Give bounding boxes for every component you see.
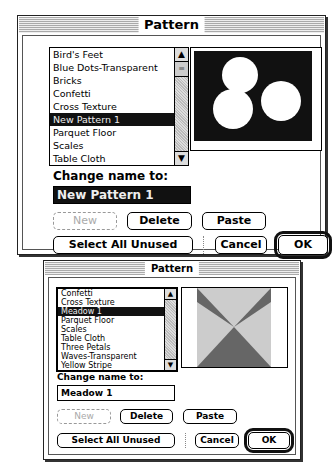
list-item[interactable]: Cross Texture — [50, 100, 175, 113]
scroll-down-arrow-icon[interactable]: ▼ — [175, 151, 188, 165]
list-item[interactable]: Table Cloth — [58, 334, 165, 343]
list-item[interactable]: Waves-Transparent — [58, 352, 165, 361]
list-item[interactable]: New Pattern 1 — [50, 113, 175, 126]
pattern-list-items: ConfettiCross TextureMeadow 1Parquet Flo… — [58, 289, 165, 370]
pattern-dialog-large: Pattern Bird's FeetBlue Dots-Transparent… — [17, 15, 326, 255]
cancel-button[interactable]: Cancel — [215, 236, 267, 254]
pattern-list[interactable]: ConfettiCross TextureMeadow 1Parquet Flo… — [56, 287, 178, 372]
pattern-list-items: Bird's FeetBlue Dots-TransparentBricksCo… — [50, 48, 175, 165]
list-item[interactable]: Confetti — [58, 289, 165, 298]
list-item[interactable]: Yellow Stripe — [58, 361, 165, 370]
list-item[interactable]: Parquet Floor — [50, 126, 175, 139]
list-item[interactable]: Blue Dots-Transparent — [50, 61, 175, 74]
pattern-preview-image — [182, 288, 287, 367]
select-all-unused-button[interactable]: Select All Unused — [53, 236, 193, 254]
new-button[interactable]: New — [57, 409, 111, 424]
pattern-preview — [190, 47, 322, 151]
new-button[interactable]: New — [53, 212, 117, 230]
title-bar[interactable]: Pattern — [45, 262, 299, 275]
dialog-content: ConfettiCross TextureMeadow 1Parquet Flo… — [48, 277, 296, 455]
dialog-title: Pattern — [145, 262, 199, 275]
change-name-label: Change name to: — [57, 372, 143, 382]
scroll-up-arrow-icon[interactable]: ▲ — [165, 289, 176, 300]
list-item[interactable]: Scales — [50, 139, 175, 152]
list-item[interactable]: Confetti — [50, 87, 175, 100]
scrollbar[interactable]: ▲ ≡ ▼ — [174, 48, 188, 165]
scroll-up-arrow-icon[interactable]: ▲ — [175, 48, 188, 62]
button-separator — [185, 433, 186, 448]
list-item[interactable]: Bricks — [50, 74, 175, 87]
pattern-preview-image — [194, 51, 312, 141]
delete-button[interactable]: Delete — [127, 212, 192, 230]
scrollbar[interactable]: ▲ ▼ — [164, 289, 176, 370]
select-all-unused-button[interactable]: Select All Unused — [57, 433, 175, 448]
pattern-preview — [181, 287, 288, 368]
ok-button[interactable]: OK — [278, 235, 328, 255]
scroll-down-arrow-icon[interactable]: ▼ — [165, 359, 176, 370]
paste-button[interactable]: Paste — [202, 212, 266, 230]
list-item[interactable]: Three Petals — [58, 343, 165, 352]
pattern-name-input[interactable]: New Pattern 1 — [53, 186, 191, 204]
list-item[interactable]: Cross Texture — [58, 298, 165, 307]
dialog-title: Pattern — [138, 17, 205, 33]
cancel-button[interactable]: Cancel — [195, 433, 239, 448]
change-name-label: Change name to: — [53, 169, 168, 183]
pattern-list[interactable]: Bird's FeetBlue Dots-TransparentBricksCo… — [49, 47, 189, 166]
list-item[interactable]: Table Cloth — [50, 152, 175, 165]
dialog-content: Bird's FeetBlue Dots-TransparentBricksCo… — [22, 35, 321, 250]
pattern-name-input[interactable]: Meadow 1 — [57, 385, 175, 401]
list-item[interactable]: Bird's Feet — [50, 48, 175, 61]
delete-button[interactable]: Delete — [120, 409, 173, 424]
pattern-dialog-small: Pattern ConfettiCross TextureMeadow 1Par… — [43, 260, 301, 460]
paste-button[interactable]: Paste — [183, 409, 237, 424]
title-bar[interactable]: Pattern — [19, 17, 324, 33]
list-item[interactable]: Parquet Floor — [58, 316, 165, 325]
ok-button[interactable]: OK — [248, 432, 290, 449]
list-item[interactable]: Scales — [58, 325, 165, 334]
list-item[interactable]: Meadow 1 — [58, 307, 165, 316]
button-separator — [203, 236, 204, 254]
scroll-thumb[interactable]: ≡ — [175, 61, 188, 77]
